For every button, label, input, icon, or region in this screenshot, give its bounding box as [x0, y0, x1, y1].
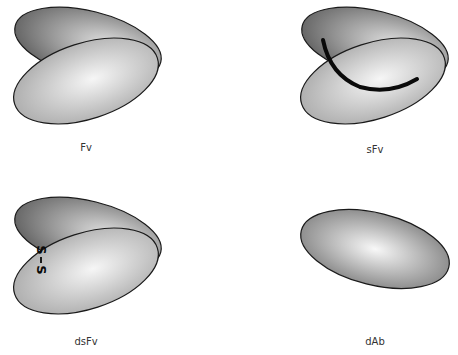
fv-diagram	[3, 0, 169, 140]
dab-single-domain	[293, 196, 458, 303]
label-fv: Fv	[46, 142, 126, 153]
antibody-fragments-diagram: S S	[0, 0, 458, 355]
label-dsfv: dsFv	[46, 336, 126, 347]
label-sfv: sFv	[335, 144, 415, 155]
sulfur-bottom: S	[34, 265, 49, 274]
sfv-diagram	[290, 0, 456, 140]
dsfv-diagram: S S	[3, 184, 169, 330]
label-dab: dAb	[335, 336, 415, 347]
dab-diagram	[293, 196, 458, 303]
sulfur-top: S	[34, 245, 49, 254]
